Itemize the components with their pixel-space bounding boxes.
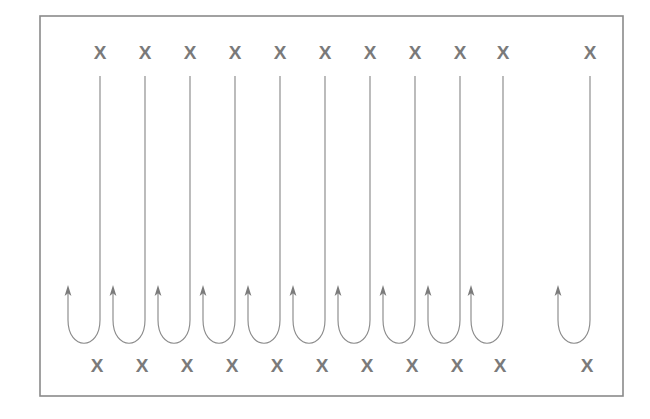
x-marker-bottom-9: X: [451, 355, 464, 376]
x-marker-top-2: X: [139, 42, 152, 63]
x-marker-bottom-10: X: [494, 355, 507, 376]
x-marker-bottom-6: X: [316, 355, 329, 376]
x-marker-bottom-5: X: [271, 355, 284, 376]
x-marker-top-10: X: [497, 42, 510, 63]
figure-canvas: Serpentine boustrophedon path over a fie…: [0, 0, 650, 419]
x-marker-top-8: X: [409, 42, 422, 63]
x-marker-bottom-1: X: [91, 355, 104, 376]
x-marker-top-11: X: [584, 42, 597, 63]
x-marker-top-9: X: [454, 42, 467, 63]
x-marker-bottom-2: X: [136, 355, 149, 376]
x-marker-top-1: X: [94, 42, 107, 63]
x-marker-bottom-4: X: [226, 355, 239, 376]
x-marker-bottom-3: X: [181, 355, 194, 376]
x-marker-bottom-7: X: [361, 355, 374, 376]
x-marker-top-6: X: [319, 42, 332, 63]
x-marker-top-3: X: [184, 42, 197, 63]
x-marker-bottom-8: X: [406, 355, 419, 376]
x-marker-bottom-11: X: [581, 355, 594, 376]
outer-border: [40, 16, 623, 396]
x-marker-top-4: X: [229, 42, 242, 63]
x-marker-top-5: X: [274, 42, 287, 63]
x-marker-top-7: X: [364, 42, 377, 63]
diagram-root: Serpentine boustrophedon path over a fie…: [0, 0, 650, 419]
